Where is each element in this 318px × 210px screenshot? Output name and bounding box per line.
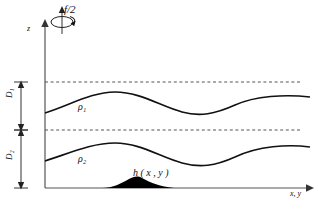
z-axis-label: z: [27, 25, 30, 33]
depth-arrow-lower: [14, 129, 28, 190]
diagram-canvas: [0, 0, 318, 210]
arrow-up-icon: [41, 19, 48, 27]
xy-axis-label: x, y: [290, 190, 301, 198]
x-axis: [45, 184, 314, 192]
rotation-rate-label: f/2: [64, 4, 76, 15]
two-layer-rotating-fluid-diagram: f/2 z x, y D₁ D₂ ρ₁ ρ₂ h ( x , y ): [0, 0, 318, 210]
topography-label: h ( x , y ): [133, 168, 169, 178]
depth-lower-label: D₂: [5, 150, 14, 160]
density-lower-label: ρ₂: [78, 154, 86, 164]
bottom-topography: [45, 177, 310, 188]
density-upper-label: ρ₁: [78, 102, 86, 112]
depth-arrow-upper: [14, 81, 28, 132]
z-axis: [41, 19, 48, 188]
depth-upper-label: D₁: [5, 88, 14, 98]
